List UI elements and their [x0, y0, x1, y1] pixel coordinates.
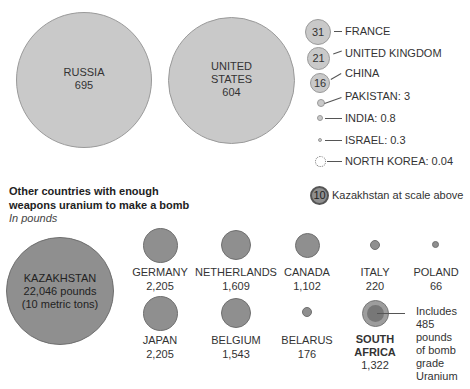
- china-value: 16: [310, 77, 330, 90]
- kazakhstan-tons: (10 metric tons): [6, 298, 114, 311]
- israel-label: ISRAEL: 0.3: [345, 134, 406, 146]
- south-africa-leader: [377, 313, 405, 314]
- russia-label: RUSSIA 695: [16, 66, 152, 92]
- israel-leader: [325, 140, 342, 141]
- south-africa-name-1: SOUTH: [330, 333, 420, 346]
- uk-leader: [333, 50, 342, 54]
- kazakhstan-name: KAZAKHSTAN: [6, 272, 114, 285]
- pakistan-label: PAKISTAN: 3: [345, 90, 410, 102]
- note-line-6: Uranium: [416, 370, 458, 383]
- kazakhstan-scale-label: Kazakhstan at scale above: [332, 189, 463, 201]
- france-leader: [334, 31, 342, 32]
- note-line-1: Includes: [416, 305, 458, 318]
- south-africa-note: Includes 485 pounds of bomb grade Uraniu…: [416, 305, 458, 383]
- russia-value: 695: [16, 79, 152, 92]
- kazakhstan-scale-value: 10: [310, 189, 329, 202]
- us-name-2: STATES: [168, 73, 295, 86]
- section-title: Other countries with enough weapons uran…: [9, 184, 189, 212]
- germany-bubble: [143, 228, 178, 263]
- north-korea-label: NORTH KOREA: 0.04: [345, 155, 453, 167]
- section-title-line-2: weapons uranium to make a bomb: [9, 198, 189, 212]
- italy-bubble: [370, 240, 380, 250]
- france-label: FRANCE: [345, 25, 390, 37]
- china-leader: [331, 73, 342, 80]
- india-label: INDIA: 0.8: [345, 112, 396, 124]
- north-korea-bubble: [315, 156, 326, 167]
- note-line-5: grade: [416, 357, 458, 370]
- pakistan-leader: [324, 97, 341, 104]
- us-name-1: UNITED: [168, 60, 295, 73]
- poland-name: POLAND: [391, 265, 470, 279]
- china-label: CHINA: [345, 67, 379, 79]
- japan-bubble: [143, 296, 178, 331]
- section-subtitle: In pounds: [9, 212, 57, 224]
- france-value: 31: [305, 26, 331, 39]
- india-bubble: [317, 115, 323, 121]
- canada-bubble: [295, 233, 320, 258]
- poland-bubble: [432, 241, 439, 248]
- kazakhstan-label: KAZAKHSTAN 22,046 pounds (10 metric tons…: [6, 272, 114, 311]
- poland-value: 66: [391, 279, 470, 293]
- uk-value: 21: [307, 52, 330, 65]
- south-africa-caption: SOUTH AFRICA 1,322: [330, 333, 420, 372]
- belgium-bubble: [221, 298, 251, 328]
- note-line-3: pounds: [416, 331, 458, 344]
- belarus-bubble: [302, 307, 312, 317]
- russia-name: RUSSIA: [16, 66, 152, 79]
- united-states-label: UNITED STATES 604: [168, 60, 295, 99]
- india-leader: [325, 118, 342, 119]
- poland-caption: POLAND 66: [391, 265, 470, 293]
- note-line-4: of bomb: [416, 344, 458, 357]
- us-value: 604: [168, 86, 295, 99]
- israel-bubble: [318, 138, 322, 142]
- uk-label: UNITED KINGDOM: [345, 47, 442, 59]
- south-africa-name-2: AFRICA: [330, 346, 420, 359]
- note-line-2: 485: [416, 318, 458, 331]
- kazakhstan-pounds: 22,046 pounds: [6, 285, 114, 298]
- section-title-line-1: Other countries with enough: [9, 184, 189, 198]
- north-korea-leader: [327, 161, 342, 162]
- netherlands-bubble: [221, 230, 251, 260]
- south-africa-value: 1,322: [330, 359, 420, 372]
